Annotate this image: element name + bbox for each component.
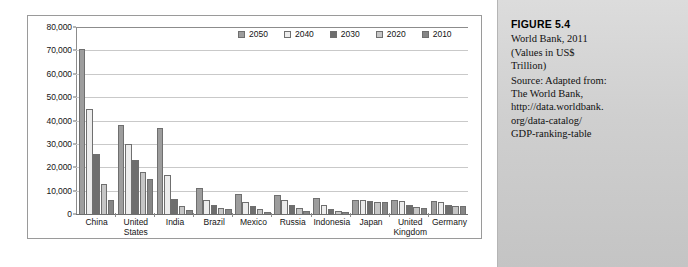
bar [86, 109, 93, 214]
bar-group [390, 27, 429, 214]
bar [242, 202, 249, 214]
bars-layer [77, 27, 468, 214]
y-tick-mark [73, 97, 76, 98]
bar [374, 202, 381, 214]
x-axis-label-line: Mexico [234, 217, 273, 227]
x-axis-label-line: India [155, 217, 194, 227]
bar-group [155, 27, 194, 214]
x-axis-label-line: Indonesia [312, 217, 351, 227]
bar [335, 211, 342, 214]
y-tick-label: 40,000 [47, 116, 72, 125]
bar [125, 144, 132, 214]
y-tick-mark [73, 27, 76, 28]
bar [438, 202, 445, 214]
figure-title-line: (Values in US$ [511, 46, 678, 59]
y-tick-mark [73, 214, 76, 215]
bar-group [351, 27, 390, 214]
x-axis-label: Germany [430, 217, 469, 237]
bar [264, 212, 271, 214]
y-tick-label: 0 [67, 210, 72, 219]
y-tick-mark [73, 50, 76, 51]
figure-title: World Bank, 2011(Values in US$Trillion) [511, 32, 678, 72]
bar [196, 188, 203, 214]
bar [186, 210, 193, 214]
bar [367, 201, 374, 214]
bar-group [116, 27, 155, 214]
x-axis-label-line: United [391, 217, 430, 227]
x-axis-label: UnitedKingdom [391, 217, 430, 237]
y-tick-label: 50,000 [47, 93, 72, 102]
bar [171, 199, 178, 214]
y-tick-mark [73, 143, 76, 144]
x-axis-label: Brazil [195, 217, 234, 237]
bar [303, 211, 310, 215]
y-tick-mark [73, 167, 76, 168]
bar [342, 212, 349, 214]
bar [431, 201, 438, 214]
x-axis-labels: ChinaUnitedStatesIndiaBrazilMexicoRussia… [77, 217, 469, 237]
y-tick-label: 60,000 [47, 70, 72, 79]
bar-group [194, 27, 233, 214]
y-tick-mark [73, 190, 76, 191]
bar [452, 206, 459, 214]
x-axis-label: Indonesia [312, 217, 351, 237]
figure-source-line: org/data-catalog/ [511, 114, 678, 127]
x-axis-label-line: Japan [351, 217, 390, 227]
x-axis-label-line: Kingdom [391, 227, 430, 237]
figure-title-line: World Bank, 2011 [511, 32, 678, 45]
y-tick-label: 70,000 [47, 46, 72, 55]
x-axis-label-line: Russia [273, 217, 312, 227]
bar [218, 208, 225, 214]
caption-panel: FIGURE 5.4 World Bank, 2011(Values in US… [497, 0, 688, 267]
bar [313, 198, 320, 214]
bar [164, 175, 171, 214]
figure-title-line: Trillion) [511, 59, 678, 72]
bar [257, 209, 264, 214]
figure-number: FIGURE 5.4 [511, 18, 678, 31]
bar [203, 200, 210, 214]
x-axis-label-line: Germany [430, 217, 469, 227]
bar [296, 208, 303, 214]
bar [211, 205, 218, 214]
figure-source-line: http://data.worldbank. [511, 100, 678, 113]
bar [391, 200, 398, 214]
chart-frame: 20502040203020202010 80,00070,00060,0005… [27, 15, 482, 239]
bar [118, 125, 125, 214]
bar [382, 202, 389, 214]
bar [132, 160, 139, 214]
plot-area: 80,00070,00060,00050,00040,00030,00020,0… [76, 27, 468, 214]
bar [235, 194, 242, 214]
bar [321, 205, 328, 214]
chart-panel: 20502040203020202010 80,00070,00060,0005… [0, 0, 497, 267]
y-tick-mark [73, 73, 76, 74]
figure-container: 20502040203020202010 80,00070,00060,0005… [0, 0, 688, 267]
bar [421, 208, 428, 214]
x-axis-label-line: States [116, 227, 155, 237]
bar [352, 200, 359, 214]
bar-group [429, 27, 468, 214]
bar [406, 205, 413, 214]
y-tick-label: 80,000 [47, 23, 72, 32]
bar-group [312, 27, 351, 214]
y-tick-label: 30,000 [47, 140, 72, 149]
bar [399, 201, 406, 214]
y-tick-label: 20,000 [47, 163, 72, 172]
bar [328, 209, 335, 214]
bar-group [233, 27, 272, 214]
figure-source: Source: Adapted from:The World Bank,http… [511, 74, 678, 141]
bar [140, 172, 147, 214]
y-tick-label: 10,000 [47, 186, 72, 195]
figure-source-line: The World Bank, [511, 87, 678, 100]
x-axis-label-line: United [116, 217, 155, 227]
x-axis-label: India [155, 217, 194, 237]
bar [147, 179, 154, 214]
bar [157, 128, 164, 214]
caption-text: FIGURE 5.4 World Bank, 2011(Values in US… [511, 18, 678, 141]
x-axis-label: Japan [351, 217, 390, 237]
bar [281, 200, 288, 214]
bar [93, 154, 100, 214]
figure-source-line: GDP-ranking-table [511, 127, 678, 140]
bar [101, 184, 108, 214]
bar [360, 200, 367, 214]
y-tick-mark [73, 120, 76, 121]
